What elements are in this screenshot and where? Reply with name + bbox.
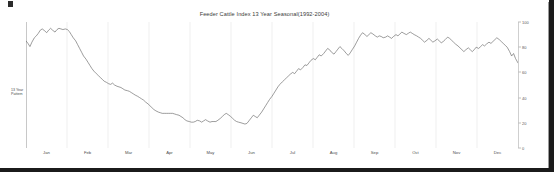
y-tick-mark (518, 47, 521, 48)
y-tick-label: 0 (522, 146, 524, 151)
x-tick-label: Mar (125, 150, 132, 155)
chart-title: Feeder Cattle Index 13 Year Seasonal(199… (0, 11, 529, 17)
x-tick-label: Jun (248, 150, 255, 155)
y-tick-mark (518, 122, 521, 123)
x-tick-label: Dec (494, 150, 501, 155)
x-tick-label: Jan (43, 150, 50, 155)
plot-right-axis (518, 22, 519, 148)
plot-frame (26, 22, 518, 148)
y-axis-tick-labels: 100806040200 (522, 22, 538, 148)
window-frame-right (549, 0, 554, 172)
y-tick-mark (518, 22, 521, 23)
x-tick-label: May (207, 150, 215, 155)
seasonal-line-chart (26, 22, 518, 148)
x-tick-label: Oct (412, 150, 419, 155)
x-tick-label: Aug (330, 150, 337, 155)
x-tick-label: Sep (371, 150, 378, 155)
gridlines (67, 22, 477, 148)
x-tick-label: Jul (290, 150, 295, 155)
x-axis-tick-labels: JanFebMarAprMayJunJulAugSepOctNovDec (26, 150, 518, 160)
x-tick-label: Nov (453, 150, 460, 155)
y-tick-mark (518, 72, 521, 73)
y-tick-label: 80 (522, 45, 526, 50)
y-tick-mark (518, 148, 521, 149)
y-tick-mark (518, 97, 521, 98)
chart-window: Feeder Cattle Index 13 Year Seasonal(199… (0, 0, 554, 176)
chart-area: Feeder Cattle Index 13 Year Seasonal(199… (0, 0, 529, 168)
y-tick-label: 100 (522, 20, 529, 25)
y-tick-label: 40 (522, 95, 526, 100)
x-tick-label: Apr (166, 150, 173, 155)
y-tick-label: 60 (522, 70, 526, 75)
window-frame-bottom (0, 168, 554, 172)
y-tick-label: 20 (522, 120, 526, 125)
x-tick-label: Feb (84, 150, 91, 155)
